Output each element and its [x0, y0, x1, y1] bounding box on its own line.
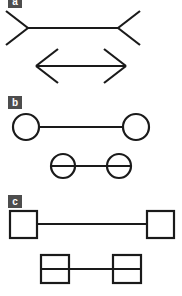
panel-c-canvas	[0, 192, 182, 296]
panel-a-canvas	[0, 0, 182, 96]
outward-fins-figure	[6, 11, 140, 45]
circles-outside-figure	[13, 114, 149, 140]
squares-inside-figure	[41, 255, 141, 283]
panel-a: a	[0, 0, 182, 96]
right-square-node	[147, 211, 174, 238]
panel-b-canvas	[0, 96, 182, 192]
left-square-node	[10, 211, 37, 238]
panel-b: b	[0, 96, 182, 192]
panel-c: c	[0, 192, 182, 296]
left-arrowhead-upper	[36, 49, 58, 66]
right-fin-upper	[118, 11, 140, 28]
right-circle-node	[123, 114, 149, 140]
circles-inside-figure	[51, 154, 131, 178]
right-fin-lower	[118, 28, 140, 45]
left-fin-upper	[6, 11, 28, 28]
left-arrowhead-lower	[36, 66, 58, 83]
right-arrowhead-lower	[104, 66, 126, 83]
muller-lyer-figure: a b	[0, 0, 182, 296]
left-circle-node	[13, 114, 39, 140]
right-arrowhead-upper	[104, 49, 126, 66]
left-fin-lower	[6, 28, 28, 45]
inward-fins-figure	[36, 49, 126, 83]
squares-outside-figure	[10, 211, 174, 238]
